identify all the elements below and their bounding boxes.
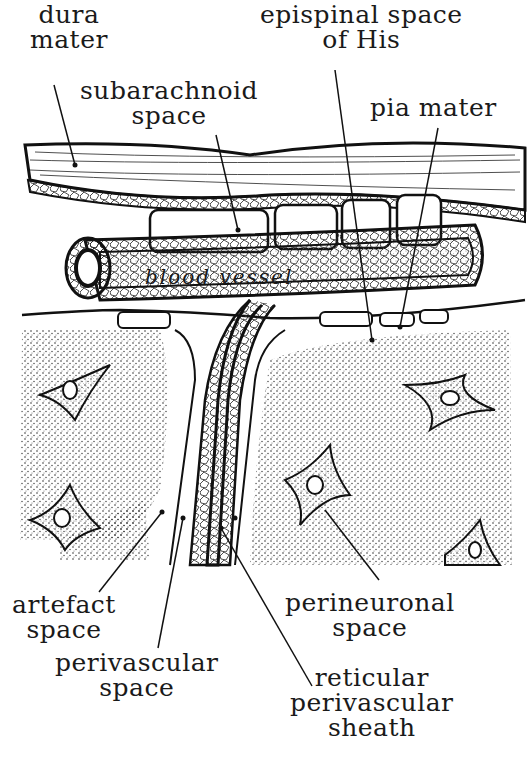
- label-line: space: [80, 103, 258, 128]
- label-artefact-space: artefact space: [12, 592, 116, 642]
- label-subarachnoid-space: subarachnoid space: [80, 78, 258, 128]
- label-line: epispinal space: [260, 2, 463, 27]
- label-line: perivascular: [290, 690, 454, 715]
- label-line: space: [285, 615, 455, 640]
- label-epispinal-space: epispinal space of His: [260, 2, 463, 52]
- label-line: pia mater: [370, 95, 497, 120]
- label-perivascular-space: perivascular space: [55, 650, 219, 700]
- label-blood-vessel: blood vessel: [145, 265, 293, 289]
- label-line: sheath: [290, 715, 454, 740]
- label-line: space: [55, 675, 219, 700]
- label-reticular-sheath: reticular perivascular sheath: [290, 665, 454, 740]
- label-line: space: [12, 617, 116, 642]
- label-line: artefact: [12, 592, 116, 617]
- label-line: perineuronal: [285, 590, 455, 615]
- label-line: of His: [260, 27, 463, 52]
- label-line: dura: [30, 2, 108, 27]
- label-line: reticular: [290, 665, 454, 690]
- label-line: perivascular: [55, 650, 219, 675]
- perivascular-anatomy-diagram: dura mater epispinal space of His subara…: [0, 0, 532, 757]
- label-line: subarachnoid: [80, 78, 258, 103]
- label-perineuronal-space: perineuronal space: [285, 590, 455, 640]
- label-pia-mater: pia mater: [370, 95, 497, 120]
- label-dura-mater: dura mater: [30, 2, 108, 52]
- label-line: mater: [30, 27, 108, 52]
